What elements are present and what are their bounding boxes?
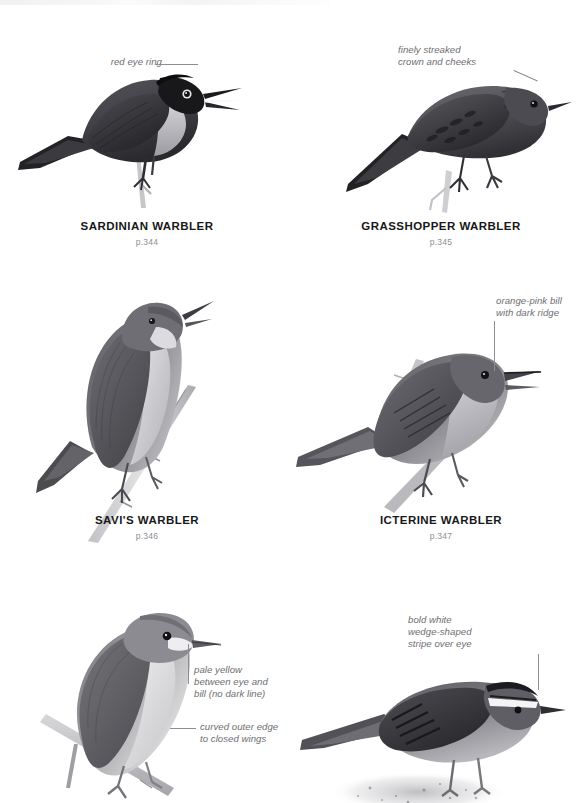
caption-savis-warbler: SAVI'S WARBLER p.346 bbox=[0, 510, 294, 541]
plate-savis-warbler: curved outer edge to closed wings SAVI'S… bbox=[0, 285, 294, 560]
callout-bottom-left-pale-yellow-lores: pale yellow between eye and bill (no dar… bbox=[194, 664, 294, 701]
caption-icterine-warbler: ICTERINE WARBLER p.347 bbox=[294, 510, 588, 541]
species-name-sardinian: SARDINIAN WARBLER bbox=[81, 220, 214, 232]
page-ref-icterine: p.347 bbox=[294, 531, 588, 541]
plate-sardinian-warbler: red eye ring SARDINIAN WARBLER p.344 bbox=[0, 20, 294, 260]
species-name-savis: SAVI'S WARBLER bbox=[95, 514, 199, 526]
callout-icterine-orange-pink-bill: orange-pink bill with dark ridge bbox=[496, 295, 588, 319]
callout-bottom-right-white-supercilium: bold white wedge-shaped stripe over eye bbox=[408, 614, 518, 651]
page-ref-sardinian: p.344 bbox=[0, 237, 294, 247]
leader-line-bottom-right bbox=[538, 654, 539, 690]
leader-line-bottom-left bbox=[188, 644, 189, 684]
species-name-icterine: ICTERINE WARBLER bbox=[380, 514, 502, 526]
bird-illustration-savis-warbler bbox=[36, 293, 246, 543]
callout-grasshopper-streaked-crown: finely streaked crown and cheeks bbox=[398, 44, 518, 68]
species-name-grasshopper: GRASSHOPPER WARBLER bbox=[361, 220, 520, 232]
leader-line-icterine bbox=[494, 321, 495, 371]
running-head-strip bbox=[0, 0, 330, 5]
plate-bottom-right-warbler: bold white wedge-shaped stripe over eye bbox=[294, 600, 588, 803]
plate-grasshopper-warbler: finely streaked crown and cheeks GRASSHO… bbox=[294, 20, 588, 260]
leader-line-sardinian bbox=[155, 64, 198, 65]
field-guide-page: red eye ring SARDINIAN WARBLER p.344 bbox=[0, 0, 588, 803]
bird-illustration-icterine-warbler bbox=[294, 315, 544, 535]
bird-illustration-bottom-right-warbler bbox=[300, 662, 570, 803]
caption-sardinian-warbler: SARDINIAN WARBLER p.344 bbox=[0, 216, 294, 247]
callout-sardinian-red-eye-ring: red eye ring bbox=[62, 56, 162, 68]
page-ref-grasshopper: p.345 bbox=[294, 237, 588, 247]
caption-grasshopper-warbler: GRASSHOPPER WARBLER p.345 bbox=[294, 216, 588, 247]
bird-illustration-bottom-left-warbler bbox=[40, 610, 260, 803]
plate-bottom-left-warbler: pale yellow between eye and bill (no dar… bbox=[0, 600, 294, 803]
plate-icterine-warbler: orange-pink bill with dark ridge ICTERIN… bbox=[294, 285, 588, 560]
page-ref-savis: p.346 bbox=[0, 531, 294, 541]
bird-illustration-grasshopper-warbler bbox=[346, 60, 576, 220]
